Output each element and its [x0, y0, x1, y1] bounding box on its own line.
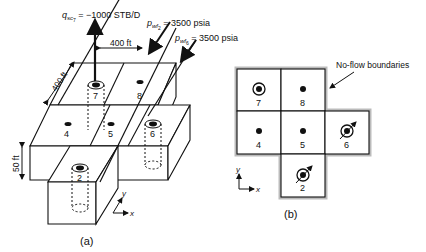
caption-a: (a) [80, 235, 93, 247]
dim-x-label: 400 ft [110, 38, 132, 48]
axes-a-icon [113, 198, 128, 213]
block-label-2: 2 [77, 173, 82, 183]
pwf2-label: pwf2 = 3500 psia [146, 18, 210, 31]
axes-b-icon [239, 174, 254, 189]
axis-y-label-a: y [121, 189, 127, 198]
block-b-label-6: 6 [344, 140, 349, 150]
annotation-arrow-icon [330, 72, 354, 88]
axis-y-label-b: y [235, 165, 241, 174]
block-b-label-8: 8 [300, 98, 305, 108]
caption-b: (b) [284, 208, 297, 220]
dim-z-label: 50 ft [11, 155, 21, 172]
axis-x-label-a: x [129, 209, 135, 218]
block-8-dot-icon [300, 86, 306, 92]
block-label-5: 5 [108, 129, 113, 139]
block-label-8: 8 [137, 91, 142, 101]
reservoir-diagram: 7 8 4 5 6 2 400 ft 400 ft 50 ft qsc7 = −… [0, 0, 426, 252]
block-4-dot-icon [256, 128, 262, 134]
block-label-6: 6 [150, 129, 155, 139]
block-b-label-2: 2 [300, 183, 305, 193]
block-5-marker-icon [108, 122, 115, 126]
no-flow-annotation: No-flow boundaries [336, 60, 409, 70]
block-b-label-7: 7 [256, 98, 261, 108]
block-label-4: 4 [64, 129, 69, 139]
axis-x-label-b: x [255, 185, 261, 194]
block-b-label-5: 5 [300, 140, 305, 150]
well-7-symbol-icon [253, 83, 265, 95]
block-5-dot-icon [300, 128, 306, 134]
block-label-7: 7 [93, 91, 98, 101]
pwf6-label: pwf6 = 3500 psia [174, 33, 238, 46]
rate-label: qsc7 = −1000 STB/D [62, 10, 141, 23]
block-8-marker-icon [137, 80, 144, 84]
block-b-label-4: 4 [256, 140, 261, 150]
block-4-marker-icon [65, 122, 72, 126]
